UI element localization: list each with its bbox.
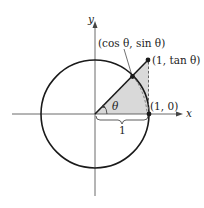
x-axis-label: x (186, 107, 192, 119)
x-axis-arrow-icon (176, 112, 183, 117)
tan-label: (1, tan θ) (152, 54, 200, 66)
y-axis-label: y (87, 13, 95, 25)
radius-brace (96, 116, 148, 124)
point-tan (146, 58, 151, 63)
unit-point-label: (1, 0) (150, 100, 178, 112)
cos-sin-label: (cos θ, sin θ) (98, 37, 165, 49)
point-cos-sin (130, 74, 135, 79)
unit-circle-diagram: y x (cos θ, sin θ) (1, tan θ) (1, 0) θ 1 (0, 0, 204, 208)
point-unit (147, 112, 152, 117)
radius-length-label: 1 (119, 124, 126, 136)
angle-label: θ (112, 100, 119, 112)
